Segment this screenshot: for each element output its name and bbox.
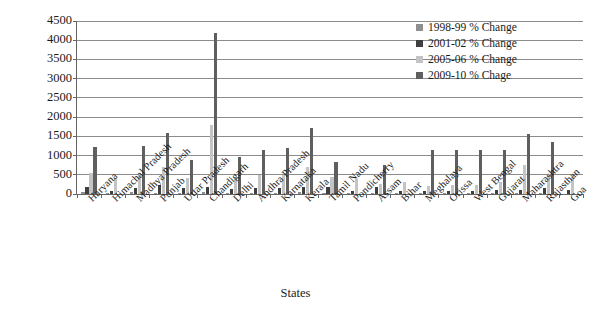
y-tick-label: 1000 xyxy=(28,149,72,162)
y-tick-label: 2000 xyxy=(28,110,72,123)
bar xyxy=(539,193,542,194)
bar xyxy=(347,193,350,194)
bar xyxy=(322,193,325,194)
y-tick-label: 1500 xyxy=(28,129,72,142)
legend-label: 1998-99 % Change xyxy=(428,21,517,34)
legend-label: 2001-02 % Change xyxy=(428,37,517,50)
bar xyxy=(202,192,205,193)
y-tick-label: 3500 xyxy=(28,52,72,65)
bar-chart: % Change 0500100015002000250030003500400… xyxy=(0,0,591,312)
bar xyxy=(298,192,301,193)
legend-label: 2009-10 % Chage xyxy=(428,69,511,82)
legend-label: 2005-06 % Change xyxy=(428,53,517,66)
bar xyxy=(210,125,213,193)
bar xyxy=(226,193,229,194)
legend-swatch-icon xyxy=(416,40,423,47)
bar xyxy=(81,192,84,194)
chart-legend: 1998-99 % Change2001-02 % Change2005-06 … xyxy=(416,19,584,83)
bar xyxy=(310,128,313,193)
x-axis-title: States xyxy=(0,286,591,301)
legend-swatch-icon xyxy=(416,56,423,63)
legend-swatch-icon xyxy=(416,72,423,79)
bar xyxy=(178,193,181,194)
legend-item: 2009-10 % Chage xyxy=(416,67,584,83)
legend-item: 2001-02 % Change xyxy=(416,35,584,51)
y-tick-label: 0 xyxy=(28,187,72,200)
y-tick-label: 4500 xyxy=(28,14,72,27)
bar xyxy=(106,193,109,194)
bar xyxy=(395,193,398,194)
bar-group xyxy=(77,21,101,194)
bar xyxy=(154,193,157,194)
bar xyxy=(491,193,494,194)
y-tick-label: 2500 xyxy=(28,91,72,104)
bar xyxy=(250,193,253,194)
legend-item: 2005-06 % Change xyxy=(416,51,584,67)
bar xyxy=(467,193,470,194)
legend-swatch-icon xyxy=(416,24,423,31)
bar xyxy=(419,193,422,194)
x-axis-category-labels: HaryanaHimachal PradeshMadhya PradeshPun… xyxy=(76,196,582,282)
legend-item: 1998-99 % Change xyxy=(416,19,584,35)
y-tick-label: 3000 xyxy=(28,72,72,85)
y-tick-label: 4000 xyxy=(28,33,72,46)
bar-group xyxy=(318,21,342,194)
bar xyxy=(371,193,374,194)
bar-group xyxy=(101,21,125,194)
bar xyxy=(515,193,518,194)
bar xyxy=(130,192,133,193)
y-axis-tick-labels: 050010001500200025003000350040004500 xyxy=(28,14,72,196)
y-tick-label: 500 xyxy=(28,168,72,181)
bar xyxy=(274,193,277,194)
bar xyxy=(443,193,446,194)
